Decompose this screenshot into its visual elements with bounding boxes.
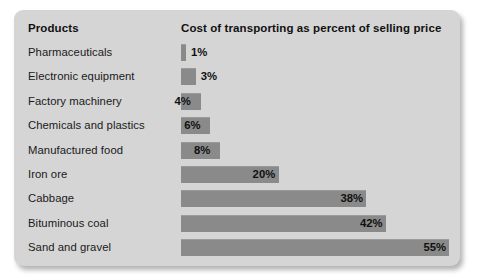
chart-header-row: Products Cost of transporting as percent… [28, 19, 448, 41]
chart-bar [181, 68, 196, 85]
chart-row: Factory machinery4% [28, 91, 448, 115]
chart-row: Bituminous coal42% [28, 213, 448, 237]
chart-bar [181, 215, 386, 232]
chart-bar-area: 6% [181, 117, 448, 134]
chart-row: Chemicals and plastics6% [28, 115, 448, 139]
chart-bar [181, 44, 186, 61]
chart-bar-area: 38% [181, 190, 448, 207]
chart-row-label: Factory machinery [28, 95, 122, 107]
column-header-measure: Cost of transporting as percent of selli… [181, 22, 441, 34]
chart-bar-value: 6% [184, 119, 200, 131]
chart-bar-area: 3% [181, 68, 448, 85]
chart-row: Sand and gravel55% [28, 237, 448, 261]
chart-row: Cabbage38% [28, 188, 448, 212]
chart-row-label: Pharmaceuticals [28, 46, 112, 58]
chart-bar-area: 20% [181, 166, 448, 183]
chart-row: Pharmaceuticals1% [28, 42, 448, 66]
column-header-products: Products [28, 22, 79, 34]
chart-row-label: Sand and gravel [28, 241, 111, 253]
chart-bar-area: 4% [181, 93, 448, 110]
chart-bar-value: 8% [194, 144, 210, 156]
chart-bar-area: 55% [181, 239, 448, 256]
chart-bar-value: 38% [340, 192, 363, 204]
screenshot-root: Products Cost of transporting as percent… [0, 0, 478, 277]
chart-bar-value: 3% [201, 70, 217, 82]
chart-bar-value: 4% [175, 95, 191, 107]
chart-row: Manufactured food8% [28, 140, 448, 164]
chart-bar-value: 20% [253, 168, 276, 180]
chart-row-label: Bituminous coal [28, 217, 109, 229]
chart-row-label: Iron ore [28, 168, 67, 180]
chart-row-label: Chemicals and plastics [28, 119, 145, 131]
chart-bar-area: 8% [181, 142, 448, 159]
chart-bar-value: 55% [423, 241, 446, 253]
chart-bar [181, 239, 449, 256]
chart-row-label: Manufactured food [28, 144, 123, 156]
chart-bar-area: 42% [181, 215, 448, 232]
chart-panel-inner: Products Cost of transporting as percent… [14, 10, 460, 266]
chart-row-label: Electronic equipment [28, 70, 135, 82]
chart-panel: Products Cost of transporting as percent… [14, 10, 460, 266]
chart-bar-value: 1% [191, 46, 207, 58]
chart-bar-value: 42% [360, 217, 383, 229]
chart-rows: Pharmaceuticals1%Electronic equipment3%F… [28, 42, 448, 262]
chart-bar-area: 1% [181, 44, 448, 61]
chart-bar [181, 190, 366, 207]
chart-row: Electronic equipment3% [28, 66, 448, 90]
chart-row-label: Cabbage [28, 192, 74, 204]
chart-row: Iron ore20% [28, 164, 448, 188]
